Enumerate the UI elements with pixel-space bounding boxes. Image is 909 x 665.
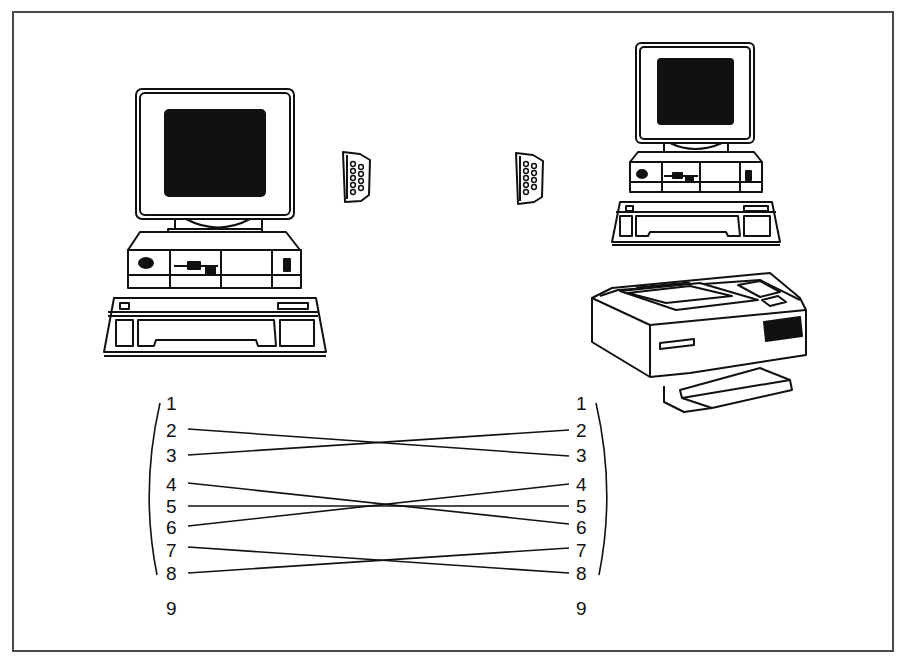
printer-icon <box>592 273 806 412</box>
right-computer-icon <box>612 43 780 245</box>
left-pin-3: 3 <box>166 446 177 465</box>
right-pin-6: 6 <box>576 518 587 537</box>
right-bracket <box>596 403 607 575</box>
left-pin-2: 2 <box>166 421 177 440</box>
right-pin-2: 2 <box>576 421 587 440</box>
right-pin-1: 1 <box>576 394 587 413</box>
left-pin-8: 8 <box>166 564 177 583</box>
diagram-artwork <box>0 0 909 665</box>
right-pin-5: 5 <box>576 497 587 516</box>
left-pin-1: 1 <box>166 394 177 413</box>
left-pin-7: 7 <box>166 541 177 560</box>
right-pin-9: 9 <box>576 599 587 618</box>
left-pin-5: 5 <box>166 497 177 516</box>
left-computer-icon <box>104 89 326 356</box>
db9-connector-right-icon <box>516 153 543 204</box>
right-pin-3: 3 <box>576 446 587 465</box>
wiring-lines <box>188 429 569 573</box>
left-pin-9: 9 <box>166 599 177 618</box>
db9-connector-left-icon <box>343 152 370 202</box>
right-pin-7: 7 <box>576 541 587 560</box>
left-pin-6: 6 <box>166 518 177 537</box>
left-bracket <box>149 403 160 575</box>
left-pin-4: 4 <box>166 475 177 494</box>
right-pin-4: 4 <box>576 475 587 494</box>
right-pin-8: 8 <box>576 564 587 583</box>
